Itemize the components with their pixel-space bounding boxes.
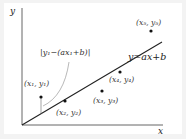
point-label-1: (x₁, y₁)	[24, 80, 49, 88]
data-point-4	[118, 70, 121, 73]
data-point-2	[63, 99, 66, 102]
data-point-3	[100, 89, 103, 92]
point-label-4: (x₄, y₄)	[109, 76, 134, 84]
point-label-2: (x₂, y₂)	[56, 109, 81, 117]
point-label-5: (x₅, y₅)	[136, 19, 161, 27]
residual-label: |y₁−(ax₁+b)|	[40, 49, 90, 57]
line-equation-label: y=ax+b	[128, 52, 166, 62]
data-point-1	[39, 95, 42, 98]
point-label-3: (x₃, y₃)	[93, 97, 118, 105]
data-point-5	[149, 29, 152, 32]
diagram-canvas: y x y=ax+b |y₁−(ax₁+b)| (x₁, y₁) (x₂, y₂…	[0, 0, 186, 139]
y-axis-label: y	[10, 7, 15, 16]
x-axis-label: x	[158, 127, 163, 136]
